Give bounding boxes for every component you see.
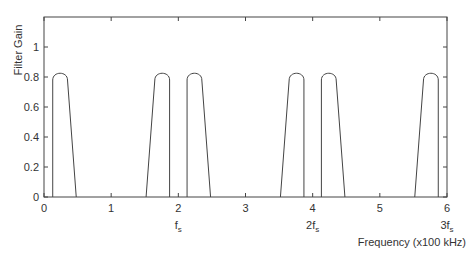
- fs-multiple-label: fs: [175, 219, 182, 234]
- y-axis-title: Filter Gain: [12, 25, 24, 76]
- filter-gain-chart: 0123456 00.20.40.60.81 fs2fs3fs Filter G…: [0, 0, 471, 259]
- fs-multiple-label: 2fs: [306, 219, 319, 234]
- x-tick-label: 5: [377, 202, 383, 214]
- y-tick-label: 0.2: [24, 161, 39, 173]
- y-tick-label: 0.4: [24, 131, 39, 143]
- x-tick-label: 6: [444, 202, 450, 214]
- fs-multiple-annotations: fs2fs3fs: [175, 219, 454, 234]
- x-tick-label: 0: [41, 202, 47, 214]
- x-tick-label: 1: [108, 202, 114, 214]
- x-tick-label: 2: [175, 202, 181, 214]
- plot-area-frame: [44, 17, 447, 197]
- x-tick-label: 3: [242, 202, 248, 214]
- y-tick-label: 0: [33, 191, 39, 203]
- x-axis-title: Frequency (x100 kHz): [358, 236, 466, 248]
- x-tick-label: 4: [310, 202, 316, 214]
- fs-multiple-label: 3fs: [440, 219, 453, 234]
- y-tick-label: 1: [33, 41, 39, 53]
- y-tick-label: 0.6: [24, 101, 39, 113]
- y-tick-label: 0.8: [24, 71, 39, 83]
